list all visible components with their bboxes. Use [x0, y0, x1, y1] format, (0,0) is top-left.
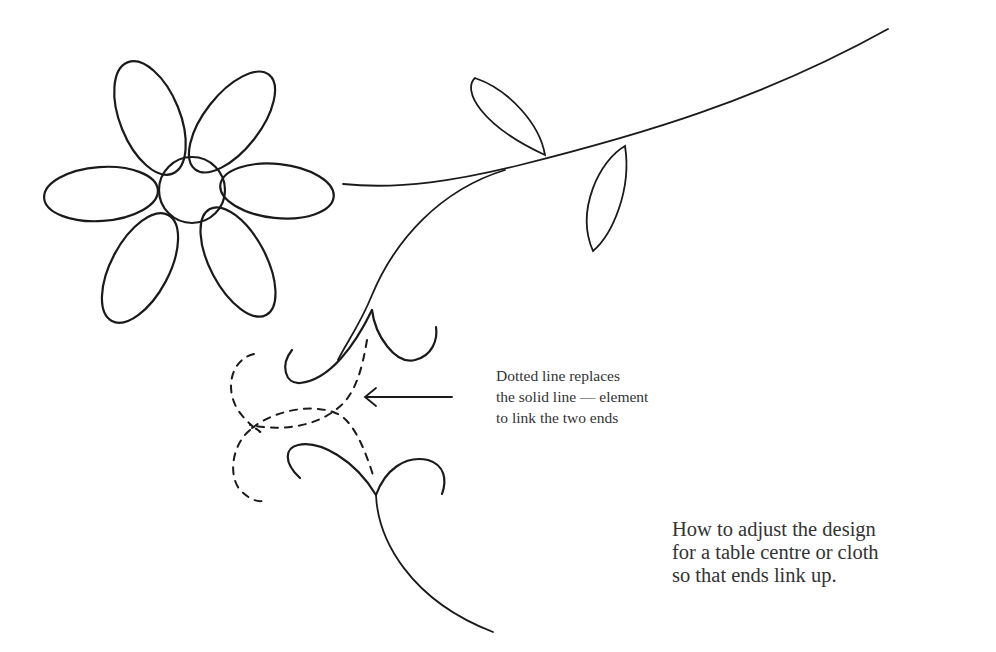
- dashed-link-line: [250, 340, 367, 428]
- annotation-line: the solid line — element: [496, 386, 648, 407]
- dashed-loop-middle: [252, 409, 373, 475]
- annotation-text: Dotted line replaces the solid line — el…: [496, 365, 648, 428]
- annotation-line: Dotted line replaces: [496, 365, 648, 386]
- lower-scroll-left: [288, 444, 376, 495]
- main-stem: [343, 29, 888, 186]
- arrow-left-icon: [365, 388, 452, 406]
- petal-top-left: [100, 51, 201, 185]
- caption-line: so that ends link up.: [672, 564, 879, 587]
- dashed-loop-upper: [231, 354, 260, 432]
- caption-line: for a table centre or cloth: [672, 541, 879, 564]
- branch-stem: [338, 170, 505, 360]
- daisy-flower: [42, 51, 336, 334]
- leaf-upper: [471, 78, 545, 155]
- caption-line: How to adjust the design: [672, 518, 879, 541]
- petal-bottom-right: [185, 196, 291, 328]
- leaf-lower: [587, 146, 627, 251]
- annotation-line: to link the two ends: [496, 407, 648, 428]
- upper-scroll-right: [372, 310, 436, 361]
- petal-top-right: [173, 57, 291, 186]
- pattern-figure: Dotted line replaces the solid line — el…: [0, 0, 996, 652]
- petal-left: [42, 163, 159, 225]
- figure-caption: How to adjust the design for a table cen…: [672, 518, 879, 587]
- dashed-loop-lower: [233, 430, 262, 501]
- lower-scroll-right: [376, 459, 444, 495]
- lower-stem-tail: [376, 495, 493, 632]
